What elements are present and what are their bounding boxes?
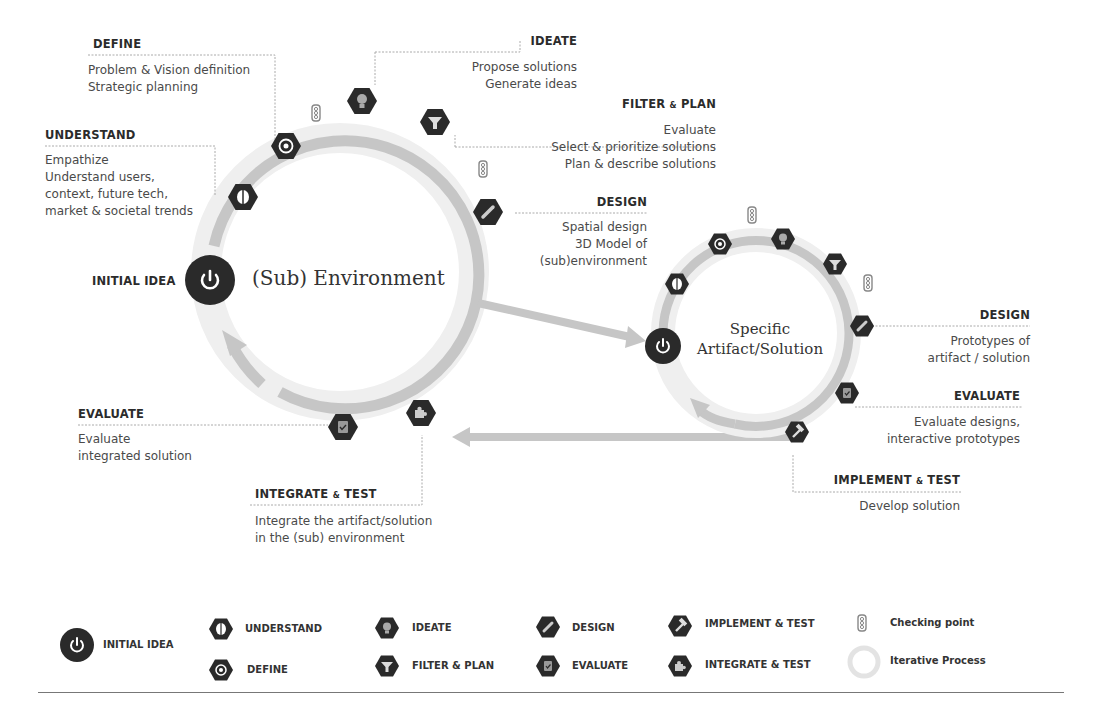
left-integrate-node[interactable] bbox=[406, 400, 436, 426]
clipboard-check-icon bbox=[843, 388, 851, 398]
filter-plan-line: Select & prioritize solutions bbox=[500, 139, 716, 156]
legend-evaluate-icon bbox=[536, 656, 560, 677]
design-line: Spatial design bbox=[527, 219, 647, 236]
artifact-title-line: Artifact/Solution bbox=[680, 339, 840, 359]
legend-understand-icon bbox=[209, 619, 233, 640]
integrate-test-description: Integrate the artifact/solution in the (… bbox=[255, 513, 432, 547]
filter-plan-description: Evaluate Select & prioritize solutions P… bbox=[500, 122, 716, 173]
brain-icon bbox=[672, 278, 682, 290]
legend-implement-icon bbox=[668, 616, 692, 637]
implement-line: Develop solution bbox=[820, 498, 960, 515]
understand-line: market & societal trends bbox=[45, 203, 193, 220]
legend-label-understand: UNDERSTAND bbox=[245, 623, 322, 634]
left-filter-node[interactable] bbox=[420, 109, 450, 135]
define-title: DEFINE bbox=[93, 37, 141, 51]
legend-label-initial-idea: INITIAL IDEA bbox=[103, 639, 174, 650]
test-title-part: TEST bbox=[927, 473, 960, 487]
design-line: (sub)environment bbox=[527, 253, 647, 270]
traffic-light-icon bbox=[479, 161, 487, 177]
evaluate-line: Evaluate bbox=[78, 431, 192, 448]
ampersand: & bbox=[333, 491, 340, 500]
legend-label-checking-point: Checking point bbox=[890, 617, 974, 628]
understand-line: Understand users, bbox=[45, 169, 193, 186]
right-evaluate-line: Evaluate designs, bbox=[860, 414, 1020, 431]
design-description: Spatial design 3D Model of (sub)environm… bbox=[527, 219, 647, 270]
arrow-to-artifact bbox=[478, 303, 630, 337]
design-title: DESIGN bbox=[540, 195, 647, 209]
legend-ideate-icon bbox=[375, 618, 399, 639]
evaluate-title: EVALUATE bbox=[78, 407, 144, 421]
ideate-line: Generate ideas bbox=[400, 76, 577, 93]
legend-iterative-icon bbox=[850, 648, 878, 676]
understand-line: context, future tech, bbox=[45, 186, 193, 203]
legend-label-iterative-process: Iterative Process bbox=[890, 655, 986, 666]
evaluate-line: integrated solution bbox=[78, 448, 192, 465]
artifact-title: Specific Artifact/Solution bbox=[680, 319, 840, 359]
integrate-test-title: INTEGRATE & TEST bbox=[255, 487, 377, 501]
traffic-light-icon bbox=[312, 105, 320, 121]
design-line: 3D Model of bbox=[527, 236, 647, 253]
ideate-line: Propose solutions bbox=[400, 59, 577, 76]
filter-plan-line: Evaluate bbox=[500, 122, 716, 139]
ampersand: & bbox=[670, 101, 677, 110]
integrate-line: Integrate the artifact/solution bbox=[255, 513, 432, 530]
right-evaluate-title: EVALUATE bbox=[920, 389, 1020, 403]
right-design-line: Prototypes of bbox=[890, 333, 1030, 350]
implement-test-description: Develop solution bbox=[820, 498, 960, 515]
legend-label-implement-test: IMPLEMENT & TEST bbox=[705, 618, 815, 629]
right-evaluate-line: interactive prototypes bbox=[860, 431, 1020, 448]
legend-initial-idea-icon bbox=[60, 628, 94, 662]
artifact-title-line: Specific bbox=[680, 319, 840, 339]
understand-title: UNDERSTAND bbox=[45, 128, 136, 142]
evaluate-description: Evaluate integrated solution bbox=[78, 431, 192, 465]
legend-label-define: DEFINE bbox=[247, 664, 288, 675]
filter-plan-line: Plan & describe solutions bbox=[500, 156, 716, 173]
test-title-part: TEST bbox=[344, 487, 377, 501]
legend-integrate-icon bbox=[668, 656, 692, 677]
define-line: Problem & Vision definition bbox=[88, 62, 250, 79]
filter-title-part: FILTER bbox=[622, 97, 665, 111]
understand-description: Empathize Understand users, context, fut… bbox=[45, 152, 193, 220]
right-evaluate-description: Evaluate designs, interactive prototypes bbox=[860, 414, 1020, 448]
legend-design-icon bbox=[536, 617, 560, 638]
left-ideate-node[interactable] bbox=[347, 88, 377, 114]
legend-label-ideate: IDEATE bbox=[412, 622, 451, 633]
left-initial-idea-node[interactable] bbox=[185, 255, 235, 305]
define-description: Problem & Vision definition Strategic pl… bbox=[88, 62, 250, 96]
arrow-to-environment-head bbox=[452, 427, 470, 447]
traffic-light-icon bbox=[864, 275, 872, 291]
filter-plan-title: FILTER & PLAN bbox=[560, 97, 716, 111]
legend-checking-point-icon bbox=[858, 615, 866, 631]
legend-filter-icon bbox=[375, 656, 399, 677]
arrow-to-artifact-head bbox=[625, 326, 646, 348]
ideate-title: IDEATE bbox=[440, 34, 577, 48]
plan-title-part: PLAN bbox=[681, 97, 716, 111]
ampersand: & bbox=[916, 477, 923, 486]
legend-define-icon bbox=[209, 660, 233, 681]
define-line: Strategic planning bbox=[88, 79, 250, 96]
right-design-line: artifact / solution bbox=[890, 350, 1030, 367]
legend-divider bbox=[38, 692, 1064, 693]
traffic-light-icon bbox=[748, 207, 756, 223]
legend-label-integrate-test: INTEGRATE & TEST bbox=[705, 659, 811, 670]
initial-idea-label: INITIAL IDEA bbox=[92, 274, 176, 288]
legend-label-filter-plan: FILTER & PLAN bbox=[412, 660, 494, 671]
understand-line: Empathize bbox=[45, 152, 193, 169]
integrate-line: in the (sub) environment bbox=[255, 530, 432, 547]
legend-label-evaluate: EVALUATE bbox=[572, 660, 628, 671]
ideate-description: Propose solutions Generate ideas bbox=[400, 59, 577, 93]
implement-test-title: IMPLEMENT & TEST bbox=[820, 473, 960, 487]
right-design-description: Prototypes of artifact / solution bbox=[890, 333, 1030, 367]
clipboard-check-icon bbox=[338, 421, 348, 433]
environment-title: (Sub) Environment bbox=[252, 266, 445, 290]
legend-label-design: DESIGN bbox=[572, 622, 615, 633]
integrate-title-part: INTEGRATE bbox=[255, 487, 328, 501]
right-initial-idea-node[interactable] bbox=[645, 328, 681, 364]
implement-title-part: IMPLEMENT bbox=[834, 473, 912, 487]
right-design-title: DESIGN bbox=[930, 308, 1030, 322]
brain-icon bbox=[237, 190, 249, 204]
